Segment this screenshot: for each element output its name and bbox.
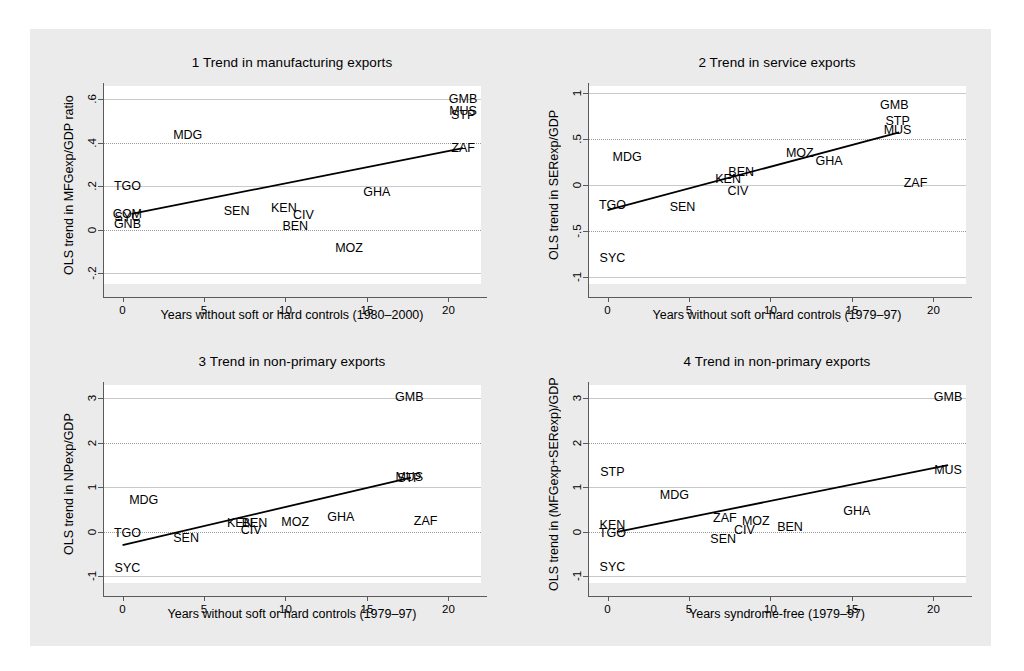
data-point-label: GMB bbox=[934, 390, 962, 404]
data-point-label: MDG bbox=[660, 488, 689, 502]
data-point-label: SYC bbox=[600, 560, 626, 574]
chart-panel-4: 4 Trend in non-primary exports3210-10510… bbox=[0, 0, 1024, 671]
ols-fit-line bbox=[0, 0, 1024, 671]
data-point-label: ZAF bbox=[713, 511, 737, 525]
data-point-label: STP bbox=[600, 465, 624, 479]
data-point-label: SEN bbox=[710, 532, 736, 546]
data-point-label: MUS bbox=[934, 463, 962, 477]
figure-root: 1 Trend in manufacturing exports.6.4.20-… bbox=[0, 0, 1024, 671]
data-point-label: BEN bbox=[777, 520, 803, 534]
data-point-label: CIV bbox=[734, 523, 755, 537]
data-point-label: TGO bbox=[599, 526, 626, 540]
data-point-label: GHA bbox=[843, 504, 870, 518]
